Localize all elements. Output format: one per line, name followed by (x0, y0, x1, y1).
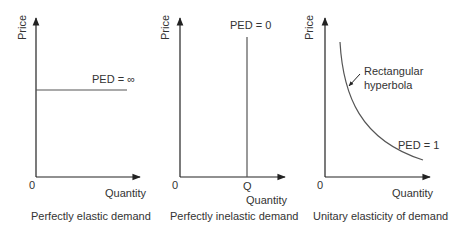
panel-unitary: Price Quantity 0 Rectangular hyperbola P… (303, 15, 448, 222)
panel-perfectly-elastic: Price Quantity 0 PED = ∞ Perfectly elast… (16, 15, 151, 222)
origin-label: 0 (172, 179, 178, 191)
y-axis-label: Price (159, 15, 171, 40)
ped-label: PED = ∞ (92, 73, 135, 85)
caption: Perfectly inelastic demand (170, 210, 298, 222)
origin-label: 0 (317, 179, 323, 191)
elasticity-diagrams: Price Quantity 0 PED = ∞ Perfectly elast… (0, 0, 463, 228)
annotation-arrow (349, 74, 360, 86)
origin-label: 0 (29, 179, 35, 191)
annotation-line2: hyperbola (364, 79, 413, 91)
x-axis-label: Quantity (105, 187, 146, 199)
caption: Perfectly elastic demand (31, 210, 151, 222)
x-axis-label: Quantity (392, 187, 433, 199)
y-axis-label: Price (303, 15, 315, 40)
q-label: Q (243, 180, 252, 192)
ped-label: PED = 0 (230, 19, 271, 31)
annotation-line1: Rectangular (364, 65, 424, 77)
panel-perfectly-inelastic: Price Quantity 0 Q PED = 0 Perfectly ine… (159, 15, 298, 222)
caption: Unitary elasticity of demand (313, 210, 448, 222)
ped-label: PED = 1 (398, 139, 439, 151)
y-axis-label: Price (16, 15, 28, 40)
x-axis-label: Quantity (246, 194, 287, 206)
